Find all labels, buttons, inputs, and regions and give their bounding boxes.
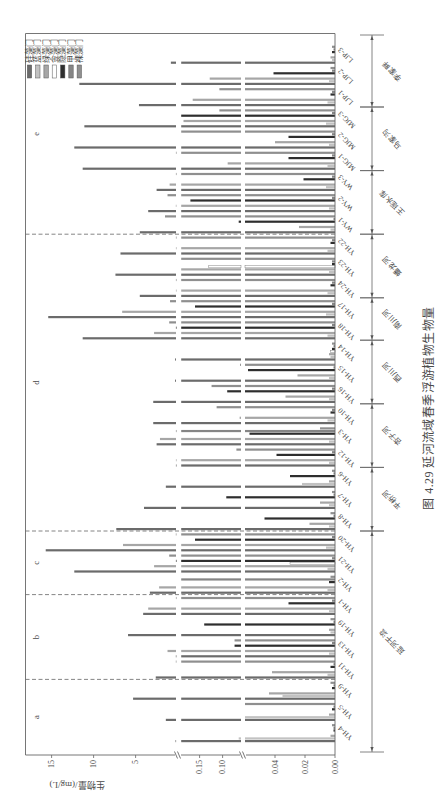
bar-segment bbox=[329, 144, 335, 146]
bar-segment bbox=[156, 676, 176, 678]
bar-segment bbox=[176, 597, 177, 599]
bar-segment bbox=[84, 125, 176, 127]
panel-label: b bbox=[31, 635, 41, 639]
bar-segment bbox=[140, 231, 176, 233]
bar-segment bbox=[245, 231, 335, 233]
bar-segment bbox=[176, 279, 177, 281]
bar-segment bbox=[245, 533, 335, 535]
bar-segment bbox=[181, 380, 241, 382]
bar-segment bbox=[331, 666, 336, 668]
value-tick-label: 0.15 bbox=[195, 760, 204, 774]
bar-segment bbox=[250, 433, 336, 435]
bar-segment bbox=[83, 168, 176, 170]
bar-segment bbox=[181, 438, 241, 440]
bar-segment bbox=[181, 459, 241, 461]
bar-segment bbox=[140, 295, 176, 297]
bar-segment bbox=[181, 152, 241, 154]
bar-segment bbox=[181, 83, 241, 85]
legend-swatch bbox=[36, 65, 40, 78]
bar-segment bbox=[245, 205, 335, 207]
bar-segment bbox=[245, 173, 335, 175]
bar-segment bbox=[181, 237, 241, 239]
value-tick-label: 5 bbox=[131, 760, 140, 764]
bar-segment bbox=[176, 430, 177, 432]
bar-segment bbox=[240, 417, 241, 419]
bar-segment bbox=[329, 377, 335, 379]
bar-segment bbox=[181, 311, 241, 313]
bar-segment bbox=[331, 618, 336, 620]
value-tick-label: 0.02 bbox=[301, 760, 310, 774]
bar-segment bbox=[331, 229, 336, 231]
bar-segment bbox=[181, 533, 241, 535]
bar-segment bbox=[181, 507, 241, 509]
bar-segment bbox=[328, 568, 336, 570]
bar-segment bbox=[181, 268, 241, 270]
bar-segment bbox=[329, 653, 335, 655]
bar-segment bbox=[245, 555, 335, 557]
bar-segment bbox=[74, 570, 176, 572]
value-tick-label: 0.04 bbox=[271, 760, 280, 774]
bar-segment bbox=[329, 398, 335, 400]
bar-segment bbox=[184, 120, 242, 122]
bar-segment bbox=[289, 136, 336, 138]
bar-segment bbox=[331, 56, 336, 58]
bar-segment bbox=[245, 390, 335, 392]
bar-segment bbox=[165, 215, 176, 217]
bar-segment bbox=[169, 321, 176, 323]
bar-segment bbox=[181, 565, 241, 567]
bar-segment bbox=[181, 194, 241, 196]
bar-segment bbox=[181, 555, 241, 557]
bar-segment bbox=[245, 661, 335, 663]
bar-segment bbox=[245, 237, 335, 239]
bar-segment bbox=[181, 661, 241, 663]
bar-segment bbox=[154, 332, 176, 334]
bar-segment bbox=[157, 189, 176, 191]
bar-segment bbox=[245, 168, 335, 170]
bar-segment bbox=[245, 578, 335, 580]
bar-segment bbox=[153, 401, 176, 403]
bar-segment bbox=[181, 279, 241, 281]
bar-segment bbox=[181, 634, 241, 636]
bar-segment bbox=[245, 162, 335, 164]
bar-segment bbox=[181, 358, 241, 360]
bar-segment bbox=[176, 173, 177, 175]
bar-segment bbox=[181, 189, 241, 191]
legend-swatch bbox=[44, 65, 48, 78]
bar-segment bbox=[245, 189, 335, 191]
bar-segment bbox=[181, 210, 241, 212]
bar-segment bbox=[176, 152, 177, 154]
bar-segment bbox=[176, 533, 177, 535]
bar-segment bbox=[116, 528, 176, 530]
bar-segment bbox=[181, 586, 241, 588]
bar-segment bbox=[204, 623, 241, 625]
bar-segment bbox=[166, 719, 176, 721]
bar-segment bbox=[310, 523, 336, 525]
bar-segment bbox=[245, 305, 335, 307]
bar-segment bbox=[245, 290, 335, 292]
bar-segment bbox=[245, 422, 335, 424]
bar-segment bbox=[239, 221, 241, 223]
bar-segment bbox=[159, 586, 176, 588]
bar-segment bbox=[245, 199, 335, 201]
legend-swatch bbox=[77, 65, 81, 78]
bar-segment bbox=[181, 215, 241, 217]
bar-segment bbox=[245, 459, 335, 461]
bar-segment bbox=[328, 292, 336, 294]
bar-segment bbox=[245, 449, 335, 451]
bar-segment bbox=[181, 258, 241, 260]
bar-segment bbox=[175, 358, 176, 360]
bar-segment bbox=[181, 125, 241, 127]
panel-label: e bbox=[31, 132, 41, 136]
bar-segment bbox=[245, 131, 335, 133]
bar-segment bbox=[176, 290, 177, 292]
bar-segment bbox=[245, 78, 335, 80]
bar-segment bbox=[245, 401, 335, 403]
bar-segment bbox=[320, 427, 335, 429]
bar-segment bbox=[245, 215, 335, 217]
y-axis-title: 生物量/(mg/L) bbox=[50, 780, 105, 791]
bar-segment bbox=[329, 480, 335, 482]
bar-segment bbox=[176, 655, 177, 657]
bar-segment bbox=[245, 62, 335, 64]
bar-segment bbox=[181, 316, 241, 318]
bar-segment bbox=[209, 266, 241, 268]
